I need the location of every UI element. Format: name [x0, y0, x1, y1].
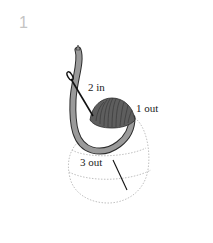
needle-3-out [113, 160, 127, 190]
label-2-in: 2 in [88, 81, 105, 93]
label-1-out: 1 out [136, 102, 158, 114]
shell-icon [90, 98, 135, 128]
diagram-svg: 2 in 1 out 3 out [0, 0, 213, 243]
stitch-illustration: 1 [0, 0, 213, 243]
label-3-out: 3 out [80, 156, 102, 168]
